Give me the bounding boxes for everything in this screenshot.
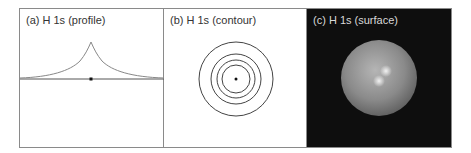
radial-profile-curve	[20, 42, 164, 78]
specular-highlight	[380, 65, 392, 77]
panel-profile: (a) H 1s (profile)	[20, 9, 164, 147]
contour-plot	[164, 9, 307, 149]
profile-plot	[20, 9, 164, 149]
nucleus-marker	[90, 78, 93, 81]
panel-surface: (c) H 1s (surface)	[307, 9, 451, 147]
specular-highlight	[373, 75, 385, 87]
nucleus-marker	[235, 78, 238, 81]
surface-plot	[307, 9, 453, 149]
orbital-figure: (a) H 1s (profile) (b) H 1s (contour) (c…	[19, 8, 452, 148]
panel-contour: (b) H 1s (contour)	[164, 9, 307, 147]
